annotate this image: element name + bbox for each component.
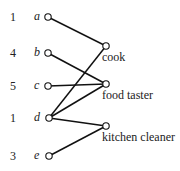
edge-c-food_taster: [48, 84, 106, 86]
node-number: 5: [10, 79, 16, 93]
edge-d-cook: [49, 46, 106, 118]
edges-group: [48, 17, 106, 156]
edge-d-food_taster: [49, 84, 106, 118]
node-number: 1: [10, 111, 16, 125]
node-d: [46, 115, 52, 121]
node-food_taster: [103, 81, 109, 87]
node-a: [45, 14, 51, 20]
node-letter: c: [34, 78, 40, 92]
bipartite-graph: 1a4b5c1d3e cookfood tasterkitchen cleane…: [0, 0, 180, 171]
node-cook: [103, 43, 109, 49]
node-letter: a: [34, 9, 40, 23]
edge-d-kitchen_cleaner: [49, 118, 106, 126]
edge-e-kitchen_cleaner: [49, 126, 106, 156]
job-label: food taster: [102, 88, 153, 102]
right-nodes-group: cookfood tasterkitchen cleaner: [102, 43, 175, 144]
edge-a-cook: [48, 17, 106, 46]
node-letter: d: [34, 110, 41, 124]
node-e: [46, 153, 52, 159]
node-number: 1: [10, 10, 16, 24]
node-b: [45, 50, 51, 56]
job-label: kitchen cleaner: [102, 130, 175, 144]
left-nodes-group: 1a4b5c1d3e: [10, 9, 52, 163]
node-letter: b: [34, 45, 40, 59]
node-number: 3: [10, 149, 16, 163]
node-c: [45, 83, 51, 89]
node-number: 4: [10, 46, 16, 60]
node-letter: e: [34, 148, 40, 162]
job-label: cook: [102, 50, 125, 64]
node-kitchen_cleaner: [103, 123, 109, 129]
